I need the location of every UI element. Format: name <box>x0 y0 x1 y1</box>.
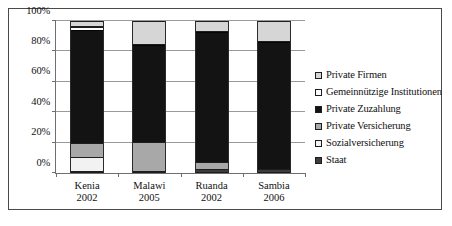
bar-segment[interactable] <box>133 21 165 45</box>
legend-swatch-icon <box>315 140 322 147</box>
x-axis-label-country: Sambia <box>258 180 290 191</box>
x-axis-tick <box>56 173 57 177</box>
chart-figure-frame: 0%20%40%60%80%100% Kenia2002Malawi2005Ru… <box>8 8 442 210</box>
x-axis-tick <box>118 173 119 177</box>
bar-segment[interactable] <box>258 21 290 42</box>
y-axis-tick <box>52 81 56 82</box>
y-axis-label: 60% <box>31 66 50 77</box>
legend-swatch-icon <box>315 123 322 130</box>
legend-item[interactable]: Sozialversicherung <box>315 135 441 152</box>
bar-segment[interactable] <box>258 42 290 170</box>
legend-item-label: Sozialversicherung <box>326 138 404 149</box>
x-axis-label-year: 2002 <box>196 192 228 204</box>
chart-legend: Private FirmenGemeinnützige Institutione… <box>315 67 441 169</box>
y-axis-label: 40% <box>31 96 50 107</box>
x-axis-label-country: Kenia <box>75 180 100 191</box>
bar-segment[interactable] <box>133 171 165 173</box>
y-axis-tick <box>52 142 56 143</box>
legend-item[interactable]: Private Firmen <box>315 67 441 84</box>
y-axis-tick <box>52 20 56 21</box>
x-axis-label-country: Malawi <box>133 180 165 191</box>
y-axis-tick <box>52 50 56 51</box>
legend-swatch-icon <box>315 106 322 113</box>
bar-segment[interactable] <box>196 21 228 32</box>
stacked-bar[interactable] <box>70 21 104 173</box>
x-axis-label-year: 2002 <box>75 192 100 204</box>
y-axis-label: 0% <box>36 157 50 168</box>
legend-item-label: Private Firmen <box>326 70 387 81</box>
bar-segment[interactable] <box>71 157 103 171</box>
legend-item-label: Staat <box>326 155 346 166</box>
x-axis-label: Malawi2005 <box>133 180 165 204</box>
x-axis-label-year: 2006 <box>258 192 290 204</box>
y-axis-tick <box>52 111 56 112</box>
bar-segment[interactable] <box>133 45 165 142</box>
legend-swatch-icon <box>315 72 322 79</box>
legend-item-label: Gemeinnützige Institutionen <box>326 87 442 98</box>
bar-segment[interactable] <box>258 169 290 173</box>
bar-segment[interactable] <box>196 169 228 173</box>
bar-segment[interactable] <box>71 143 103 157</box>
y-axis-label: 80% <box>31 36 50 47</box>
x-axis-label: Kenia2002 <box>75 180 100 204</box>
legend-item[interactable]: Private Zuzahlung <box>315 101 441 118</box>
stacked-bar[interactable] <box>132 21 166 173</box>
stacked-bar[interactable] <box>195 21 229 173</box>
x-axis-tick <box>181 173 182 177</box>
x-axis-label-country: Ruanda <box>196 180 228 191</box>
legend-swatch-icon <box>315 157 322 164</box>
bar-segment[interactable] <box>133 142 165 171</box>
legend-item-label: Private Versicherung <box>326 121 411 132</box>
x-axis-label: Sambia2006 <box>258 180 290 204</box>
x-axis-tick <box>305 173 306 177</box>
y-axis-label: 100% <box>26 5 50 16</box>
legend-item[interactable]: Gemeinnützige Institutionen <box>315 84 441 101</box>
legend-item[interactable]: Staat <box>315 152 441 169</box>
legend-item-label: Private Zuzahlung <box>326 104 401 115</box>
x-axis-tick <box>243 173 244 177</box>
bar-segment[interactable] <box>196 32 228 161</box>
legend-item[interactable]: Private Versicherung <box>315 118 441 135</box>
x-axis-label-year: 2005 <box>133 192 165 204</box>
bar-segment[interactable] <box>196 162 228 170</box>
plot-area: 0%20%40%60%80%100% Kenia2002Malawi2005Ru… <box>55 21 305 174</box>
bar-segment[interactable] <box>71 30 103 142</box>
x-axis-label: Ruanda2002 <box>196 180 228 204</box>
y-axis-label: 20% <box>31 127 50 138</box>
bar-segment[interactable] <box>71 171 103 173</box>
legend-swatch-icon <box>315 89 322 96</box>
stacked-bar[interactable] <box>257 21 291 173</box>
